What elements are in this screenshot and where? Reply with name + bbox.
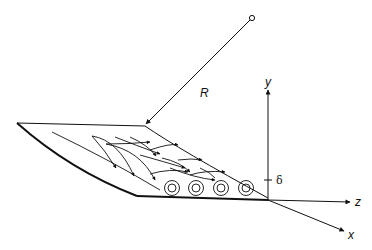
vortex [165, 181, 180, 196]
boundary-layer-thickness-label: δ [276, 174, 283, 187]
x-axis [268, 200, 344, 231]
y-axis-label: y [264, 75, 272, 89]
concave-wall [17, 123, 268, 200]
radius-label: R [200, 86, 209, 100]
vortex [239, 181, 254, 196]
vortex [214, 181, 229, 196]
goertler-vortex-diagram: R y z x δ [0, 0, 372, 250]
axes [264, 90, 350, 231]
center-of-curvature-icon [249, 15, 254, 20]
z-axis-label: z [354, 195, 361, 209]
x-axis-label: x [347, 228, 355, 242]
radius-indicator [146, 15, 255, 124]
vortex [189, 181, 204, 196]
z-axis [268, 200, 350, 202]
vortex-row [165, 181, 254, 196]
